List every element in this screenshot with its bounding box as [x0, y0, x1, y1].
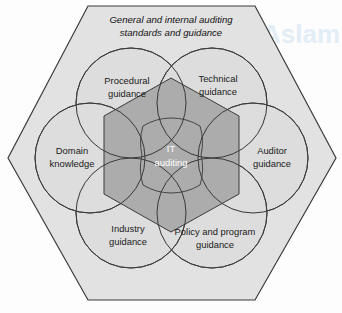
- label-procedural-line-2: guidance: [108, 88, 146, 99]
- it-auditing-venn-diagram: Aslam: [0, 0, 342, 313]
- label-policy-line-2: guidance: [196, 239, 234, 250]
- label-technical-line-1: Technical: [198, 73, 237, 84]
- center-label-line-1: IT: [167, 143, 176, 154]
- header-line-1: General and internal auditing: [109, 14, 233, 25]
- label-domain-line-1: Domain: [56, 145, 88, 156]
- label-auditor-line-1: Auditor: [257, 145, 287, 156]
- label-technical-line-2: guidance: [199, 86, 237, 97]
- label-auditor-line-2: guidance: [253, 158, 291, 169]
- label-domain-line-2: knowledge: [50, 158, 95, 169]
- diagram-figure: Aslam: [0, 0, 342, 313]
- label-industry-line-2: guidance: [109, 236, 147, 247]
- label-policy-line-1: Policy and program: [175, 226, 256, 237]
- label-procedural-line-1: Procedural: [104, 75, 149, 86]
- label-industry-line-1: Industry: [111, 223, 145, 234]
- center-label-line-2: auditing: [155, 157, 188, 168]
- header-line-2: standards and guidance: [120, 27, 222, 38]
